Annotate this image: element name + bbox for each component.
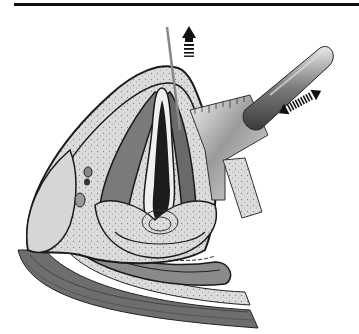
anatomical-illustration (0, 0, 359, 334)
cylindrical-instrument (243, 46, 333, 129)
upward-arrow-icon (182, 26, 196, 57)
